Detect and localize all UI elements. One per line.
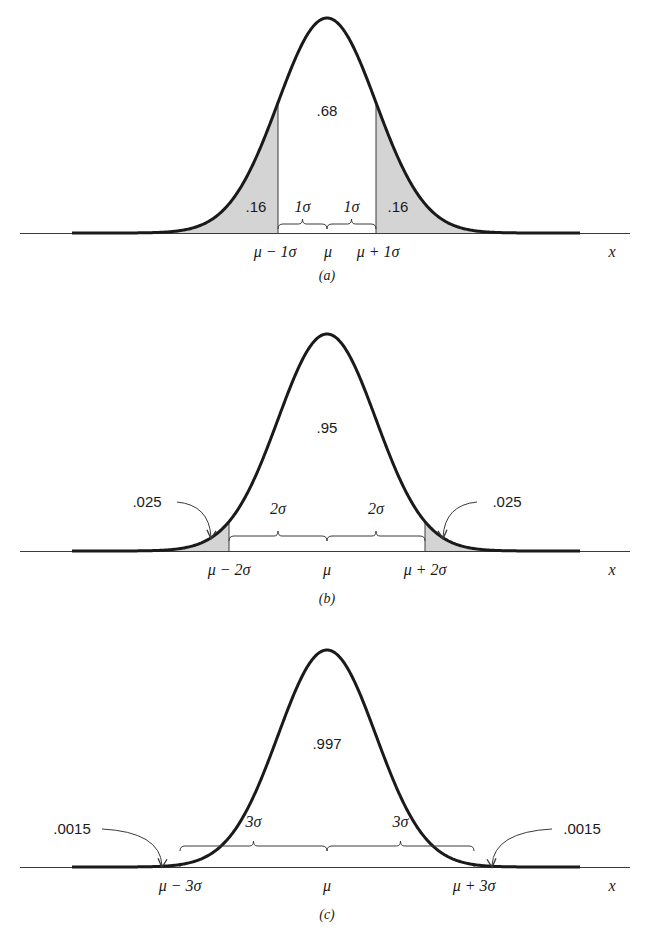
left-tail-arrow: [177, 502, 211, 537]
left-tail-arrow: [102, 829, 162, 865]
right-sigma-brace: [327, 531, 425, 541]
mean-label: μ: [323, 243, 332, 261]
x-axis-label: x: [607, 243, 615, 260]
left-sigma-label: 3σ: [245, 813, 263, 830]
left-bound-label: μ − 2σ: [207, 561, 252, 579]
right-sigma-brace: [327, 219, 376, 229]
left-tail-label: .025: [132, 493, 161, 510]
panel-b: 2σ2σ.95.025.025μ − 2σμμ + 2σx(b): [20, 334, 630, 607]
center-area-label: .68: [317, 102, 338, 119]
left-tail-label: .0015: [53, 820, 91, 837]
right-tail-label: .16: [388, 198, 409, 215]
normal-curve: [72, 334, 580, 551]
right-tail-arrow: [443, 502, 477, 537]
left-sigma-brace: [278, 219, 327, 229]
right-bound-label: μ + 2σ: [403, 561, 448, 579]
right-tail-shade: [425, 522, 580, 551]
normal-curve: [72, 18, 580, 233]
right-sigma-label: 3σ: [392, 813, 410, 830]
mean-label: μ: [322, 561, 331, 579]
left-sigma-label: 1σ: [295, 198, 312, 215]
center-area-label: .95: [317, 419, 338, 436]
right-tail-arrow: [492, 829, 552, 865]
x-axis-label: x: [607, 561, 615, 578]
left-sigma-brace: [180, 841, 327, 851]
left-bound-label: μ − 3σ: [158, 877, 203, 895]
mean-label: μ: [322, 877, 331, 895]
left-tail-shade: [72, 522, 229, 551]
left-bound-label: μ − 1σ: [253, 243, 298, 261]
panel-c: 3σ3σ.997.0015.0015μ − 3σμμ + 3σx(c): [20, 650, 630, 923]
panel-caption: (a): [319, 268, 336, 284]
panel-a: 1σ1σ.68.16.16μ − 1σμμ + 1σx(a): [20, 18, 630, 284]
x-axis-label: x: [607, 877, 615, 894]
right-tail-label: .0015: [563, 820, 601, 837]
right-tail-label: .025: [492, 493, 521, 510]
right-sigma-label: 1σ: [344, 198, 361, 215]
normal-distribution-figure: 1σ1σ.68.16.16μ − 1σμμ + 1σx(a)2σ2σ.95.02…: [0, 0, 653, 941]
right-bound-label: μ + 3σ: [452, 877, 497, 895]
normal-curve: [72, 650, 580, 867]
panel-caption: (b): [319, 591, 336, 607]
right-sigma-label: 2σ: [368, 500, 385, 517]
right-bound-label: μ + 1σ: [356, 243, 401, 261]
left-sigma-brace: [229, 531, 327, 541]
left-tail-label: .16: [246, 198, 267, 215]
left-sigma-label: 2σ: [270, 500, 287, 517]
center-area-label: .997: [312, 735, 341, 752]
panel-caption: (c): [319, 907, 335, 923]
right-sigma-brace: [327, 841, 474, 851]
